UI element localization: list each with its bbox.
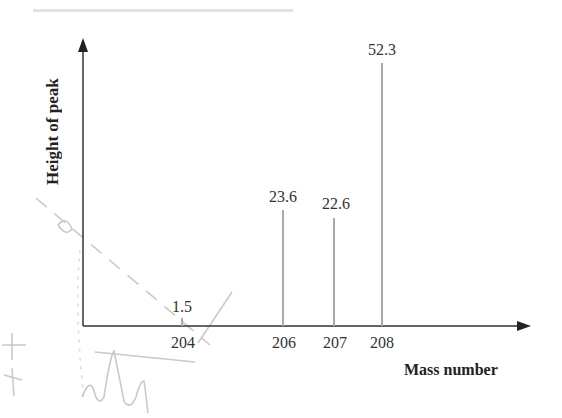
value-label-207: 22.6	[322, 195, 350, 213]
x-tick-206: 206	[272, 334, 296, 352]
x-tick-208: 208	[370, 334, 394, 352]
x-tick-207: 207	[323, 334, 347, 352]
value-label-204: 1.5	[172, 298, 192, 316]
chart-plot	[0, 0, 562, 418]
x-tick-204: 204	[171, 334, 195, 352]
value-label-206: 23.6	[269, 188, 297, 206]
pencil-marks	[2, 198, 232, 413]
value-label-208: 52.3	[368, 41, 396, 59]
y-axis-label: Height of peak	[44, 45, 62, 185]
y-axis-arrow-icon	[78, 38, 88, 52]
x-axis-arrow-icon	[517, 321, 531, 331]
x-axis-label: Mass number	[404, 361, 498, 379]
